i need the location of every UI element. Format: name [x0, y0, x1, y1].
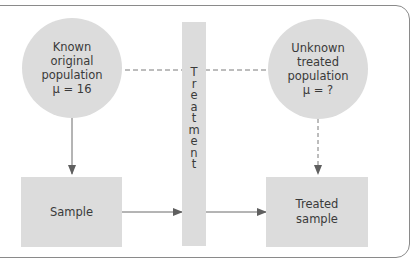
known-population-circle: Known original population μ = 16 [22, 18, 122, 118]
unknown-population-circle: Unknown treated population μ = ? [268, 19, 368, 119]
unknown-population-line-1: Unknown [291, 41, 344, 55]
known-population-mean: μ = 16 [53, 82, 92, 96]
treated-sample-line-1: Treated [296, 197, 339, 212]
unknown-population-line-2: treated [297, 55, 339, 69]
sample-label: Sample [50, 205, 93, 220]
treated-sample-box: Treated sample [266, 177, 368, 247]
known-population-line-1: Known [53, 40, 92, 54]
treatment-letter: t [182, 159, 206, 171]
unknown-population-mean: μ = ? [303, 83, 333, 97]
known-population-line-3: population [41, 68, 102, 82]
unknown-population-line-3: population [287, 69, 348, 83]
known-population-line-2: original [51, 54, 94, 68]
treated-sample-line-2: sample [296, 212, 338, 227]
treatment-label: T r e a t m e n t [182, 67, 206, 171]
sample-box: Sample [21, 177, 122, 247]
